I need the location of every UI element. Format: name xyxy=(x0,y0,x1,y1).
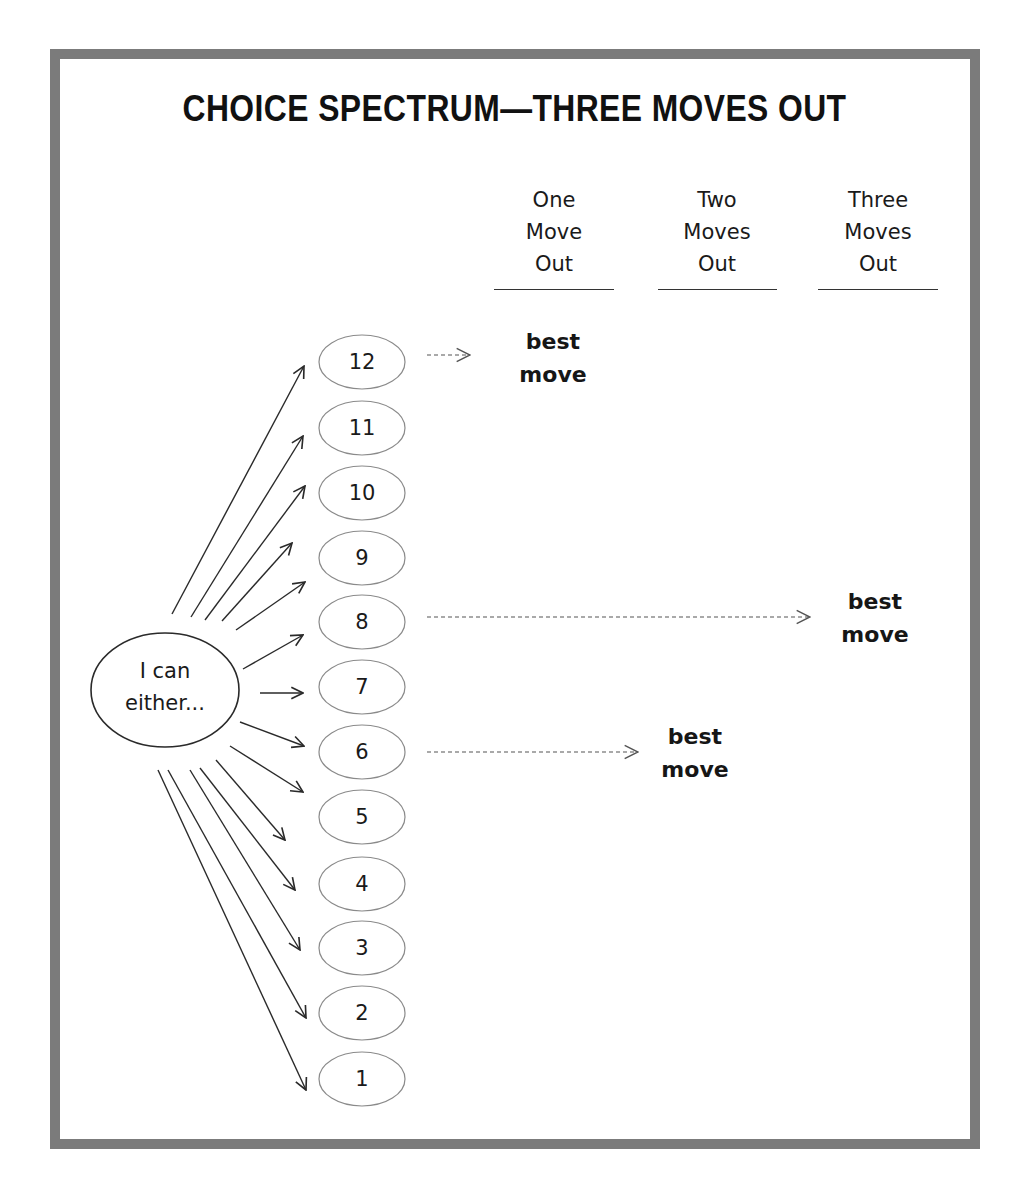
best-move-line: move xyxy=(650,753,740,786)
arrow-to-4 xyxy=(216,760,285,840)
best-move-arrows xyxy=(427,355,810,752)
arrow-to-8 xyxy=(236,582,305,630)
option-label-1: 1 xyxy=(319,1053,405,1105)
option-label-11: 11 xyxy=(319,402,405,454)
arrow-to-5 xyxy=(230,746,303,792)
arrow-to-1 xyxy=(158,770,306,1090)
arrow-to-1b xyxy=(168,770,306,1018)
best-move-line: move xyxy=(830,618,920,651)
best-move-three-out: best move xyxy=(830,585,920,651)
option-label-5: 5 xyxy=(319,791,405,843)
option-label-8: 8 xyxy=(319,596,405,648)
origin-label-line: I can xyxy=(90,655,240,687)
best-move-two-out: best move xyxy=(650,720,740,786)
option-label-7: 7 xyxy=(319,661,405,713)
best-move-line: best xyxy=(650,720,740,753)
arrow-to-11 xyxy=(191,436,303,617)
best-move-line: move xyxy=(508,358,598,391)
option-label-3: 3 xyxy=(319,922,405,974)
arrow-to-6b xyxy=(240,722,304,746)
arrow-to-7 xyxy=(243,635,303,669)
arrow-to-10 xyxy=(205,486,305,620)
option-label-10: 10 xyxy=(319,467,405,519)
option-arrows xyxy=(158,366,306,1090)
origin-label: I can either... xyxy=(90,655,240,719)
option-label-9: 9 xyxy=(319,532,405,584)
origin-label-line: either... xyxy=(90,687,240,719)
best-move-line: best xyxy=(830,585,920,618)
best-move-line: best xyxy=(508,325,598,358)
option-label-12: 12 xyxy=(319,336,405,388)
option-label-6: 6 xyxy=(319,726,405,778)
arrow-to-2 xyxy=(190,770,300,950)
option-label-2: 2 xyxy=(319,987,405,1039)
best-move-one-out: best move xyxy=(508,325,598,391)
arrow-to-3 xyxy=(200,768,295,890)
option-label-4: 4 xyxy=(319,858,405,910)
